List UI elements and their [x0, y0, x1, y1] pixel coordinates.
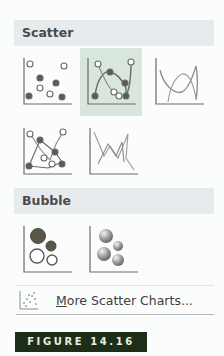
scatter-markers-icon: [16, 48, 78, 116]
more-scatter-charts-label: More Scatter Charts...: [56, 293, 193, 308]
bubble-3d-icon: [82, 216, 144, 284]
bubble-icon: [16, 216, 78, 284]
chart-option-scatter-smooth-lines[interactable]: [148, 48, 210, 116]
more-link-text: ore Scatter Charts...: [67, 293, 193, 308]
more-scatter-charts-link[interactable]: More Scatter Charts...: [16, 285, 214, 315]
scatter-straight-lines-icon: [82, 118, 144, 186]
chart-option-scatter-straight-markers[interactable]: [16, 118, 78, 186]
chart-option-bubble-3d[interactable]: [82, 216, 144, 284]
more-scatter-charts-icon: [18, 289, 40, 311]
chart-option-scatter-smooth-markers[interactable]: [80, 48, 142, 116]
chart-option-scatter-straight-lines[interactable]: [82, 118, 144, 186]
scatter-smooth-markers-icon: [80, 48, 142, 116]
figure-caption: FIGURE 14.16: [15, 332, 147, 352]
section-header-bubble: Bubble: [14, 188, 214, 214]
section-header-scatter: Scatter: [14, 20, 214, 46]
scatter-straight-markers-icon: [16, 118, 78, 186]
chart-option-bubble[interactable]: [16, 216, 78, 284]
chart-option-scatter[interactable]: [16, 48, 78, 116]
accelerator-key: M: [56, 293, 67, 308]
scatter-smooth-lines-icon: [148, 48, 210, 116]
